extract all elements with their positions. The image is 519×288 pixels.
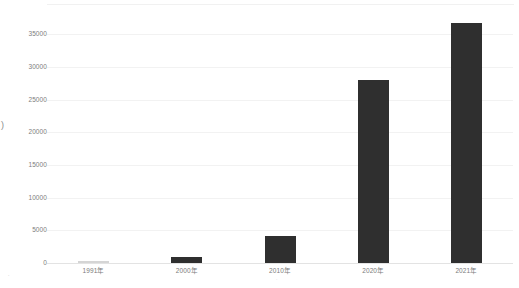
- x-tick-submark: ∙: [276, 277, 277, 282]
- x-tick-label: 2020年: [327, 267, 420, 275]
- x-tick-label: 2010年: [233, 267, 326, 275]
- x-tick-label: 2000年: [140, 267, 233, 275]
- x-tick-label: 1991年: [47, 267, 140, 275]
- x-axis: 1991年2000年2010年∙2020年2021年: [0, 0, 519, 288]
- bar-chart: ) ∙ 05000100001500020000250003000035000 …: [0, 0, 519, 288]
- x-tick-label: 2021年: [420, 267, 513, 275]
